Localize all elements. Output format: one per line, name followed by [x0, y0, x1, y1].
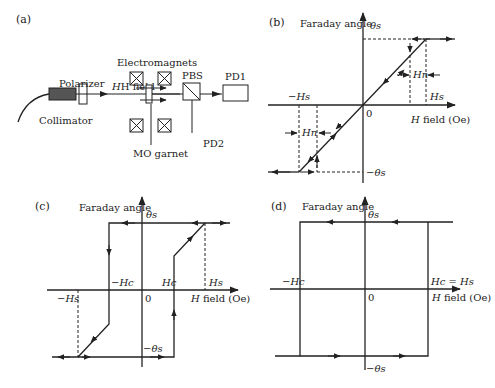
- beam-arrow-icon: [212, 91, 221, 97]
- neg-theta-s-label: −θs: [366, 363, 386, 374]
- neg-theta-s-label: −θs: [143, 343, 163, 354]
- origin-label: 0: [145, 293, 151, 304]
- panel-b-linear-loop: (b) Faraday angle 0 H field (Oe) θs −θs …: [268, 13, 470, 183]
- hn-left-label: Hn: [301, 127, 317, 138]
- y-axis-label: Faraday angle: [302, 201, 374, 212]
- theta-s-label: θs: [146, 209, 157, 220]
- y-axis-label: Faraday angle: [79, 202, 151, 213]
- x-axis-label: H field (Oe): [410, 114, 470, 125]
- hs-label: Hs: [429, 91, 444, 102]
- neg-hs-label: −Hs: [288, 91, 310, 102]
- panel-a-label: (a): [16, 13, 31, 26]
- panel-b-label: (b): [269, 16, 285, 29]
- figure-canvas: (a) Collimator Polarizer Electromagnets …: [0, 0, 495, 388]
- hc-eq-hs-label: Hc = Hs: [430, 276, 474, 287]
- mo-garnet-label: MO garnet: [133, 148, 188, 159]
- panel-d-label: (d): [271, 200, 287, 213]
- electromagnet-icon: [158, 72, 171, 85]
- electromagnet-icon: [130, 119, 143, 132]
- hs-label: Hs: [208, 277, 223, 288]
- panel-c-hysteresis-loop: (c) Faraday angle 0 H field (Oe) θs −θs …: [35, 197, 250, 367]
- y-axis-label: Faraday angle: [300, 18, 372, 29]
- panel-c-label: (c): [35, 200, 50, 213]
- neg-hs-label: −Hs: [57, 293, 79, 304]
- neg-hc-label: −Hc: [282, 276, 305, 287]
- origin-label: 0: [366, 108, 372, 119]
- origin-label: 0: [368, 292, 374, 303]
- pd1-icon: [223, 85, 248, 101]
- pbs-label: PBS: [182, 70, 203, 81]
- panel-a-setup: (a) Collimator Polarizer Electromagnets …: [16, 13, 248, 159]
- collimator-label: Collimator: [39, 115, 93, 126]
- x-axis-label: H field (Oe): [190, 293, 250, 304]
- figure: (a) Collimator Polarizer Electromagnets …: [0, 0, 495, 388]
- electromagnet-icon: [158, 119, 171, 132]
- electromagnets-label: Electromagnets: [117, 57, 197, 68]
- collimator-icon: [49, 88, 76, 100]
- beam-arrow-icon: [100, 91, 108, 97]
- pd1-label: PD1: [225, 71, 246, 82]
- panel-d-square-loop: (d) Faraday angle 0 H field (Oe) θs −θs …: [270, 197, 491, 374]
- theta-s-label: θs: [370, 20, 381, 31]
- hn-right-label: Hn: [412, 69, 428, 80]
- polarizer-label: Polarizer: [59, 78, 105, 89]
- x-axis-label: H field (Oe): [431, 292, 491, 303]
- neg-theta-s-label: −θs: [366, 167, 386, 178]
- theta-s-label: θs: [368, 209, 379, 220]
- neg-hc-label: −Hc: [111, 277, 134, 288]
- pd2-label: PD2: [203, 138, 224, 149]
